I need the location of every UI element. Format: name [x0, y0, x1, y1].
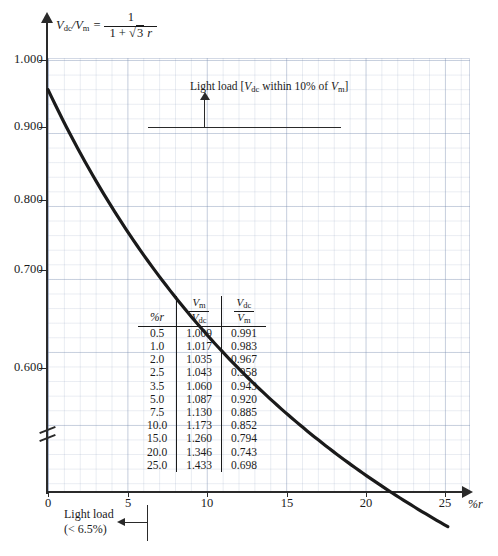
y-tick-label: 0.600 — [0, 360, 43, 375]
x-tick-label: 0 — [28, 496, 68, 511]
annotation-up-arrow-icon — [200, 92, 210, 100]
table-cell-vm-vdc: 1.009 — [177, 326, 222, 340]
data-table: %r Vm Vdc Vdc Vm 0.51.0090.9911.01.0170.… — [138, 296, 266, 472]
table-row: 7.51.1300.885 — [138, 406, 266, 419]
table-row: 20.01.3460.743 — [138, 446, 266, 459]
table-row: 2.51.0430.958 — [138, 366, 266, 379]
table-body: 0.51.0090.9911.01.0170.9832.01.0350.9672… — [138, 326, 266, 472]
table-cell-vm-vdc: 1.433 — [177, 459, 222, 472]
y-tick-label: 1.000 — [0, 52, 43, 67]
y-axis-line — [46, 20, 48, 494]
x-tick-label: 20 — [346, 496, 386, 511]
table-cell-vm-vdc: 1.260 — [177, 432, 222, 445]
x-axis-line — [46, 491, 464, 493]
y-tick-label: 0.800 — [0, 192, 43, 207]
table-cell-vm-vdc: 1.173 — [177, 419, 222, 432]
table-row: 15.01.2600.794 — [138, 432, 266, 445]
x-tick-label: 25 — [425, 496, 465, 511]
table-cell-vdc-vm: 0.743 — [222, 446, 266, 459]
table-cell-percent-r: 5.0 — [138, 393, 177, 406]
table-row: 2.01.0350.967 — [138, 353, 266, 366]
table-cell-percent-r: 7.5 — [138, 406, 177, 419]
table-cell-vm-vdc: 1.346 — [177, 446, 222, 459]
table-row: 3.51.0600.943 — [138, 380, 266, 393]
table-header-vm-over-vdc: Vm Vdc — [177, 296, 222, 326]
table-cell-percent-r: 10.0 — [138, 419, 177, 432]
table-header-row: %r Vm Vdc Vdc Vm — [138, 296, 266, 326]
table-cell-vdc-vm: 0.920 — [222, 393, 266, 406]
annotation-bottom-horizontal-line — [124, 522, 148, 523]
formula-denominator: 1 + √3 r — [104, 26, 157, 41]
y-tick-label: 0.700 — [0, 262, 43, 277]
table-cell-vdc-vm: 0.698 — [222, 459, 266, 472]
table-row: 10.01.1730.852 — [138, 419, 266, 432]
table-cell-vm-vdc: 1.060 — [177, 380, 222, 393]
annotation-left-arrow-icon — [117, 518, 125, 526]
table-cell-vdc-vm: 0.943 — [222, 380, 266, 393]
table-cell-percent-r: 0.5 — [138, 326, 177, 340]
x-tick-label: 10 — [187, 496, 227, 511]
table-cell-vm-vdc: 1.130 — [177, 406, 222, 419]
table-row: 0.51.0090.991 — [138, 326, 266, 340]
x-axis-label: %r — [468, 497, 483, 512]
table-cell-percent-r: 1.0 — [138, 340, 177, 353]
table-cell-vm-vdc: 1.017 — [177, 340, 222, 353]
formula-equals: = — [93, 18, 100, 33]
x-tick-label: 15 — [267, 496, 307, 511]
table-cell-percent-r: 2.5 — [138, 366, 177, 379]
table-row: 1.01.0170.983 — [138, 340, 266, 353]
table-row: 5.01.0870.920 — [138, 393, 266, 406]
table-cell-vdc-vm: 0.967 — [222, 353, 266, 366]
chart-figure: Vdc/Vm = 1 1 + √3 r 1.000 0.900 0.800 0.… — [0, 0, 498, 556]
formula-fraction: 1 1 + √3 r — [104, 11, 157, 40]
annotation-light-load-range: Light load (< 6.5%) — [64, 507, 114, 537]
annotation-bottom-line2: (< 6.5%) — [64, 522, 114, 537]
table-cell-vm-vdc: 1.087 — [177, 393, 222, 406]
table-cell-vm-vdc: 1.035 — [177, 353, 222, 366]
annotation-bottom-line1: Light load — [64, 507, 114, 522]
table-cell-vdc-vm: 0.852 — [222, 419, 266, 432]
table-cell-percent-r: 2.0 — [138, 353, 177, 366]
x-tick-label: 5 — [108, 496, 148, 511]
annotation-light-load-vdc: Light load [Vdc within 10% of Vm] — [190, 80, 348, 94]
table-cell-vdc-vm: 0.991 — [222, 326, 266, 340]
table-row: 25.01.4330.698 — [138, 459, 266, 472]
table-cell-vm-vdc: 1.043 — [177, 366, 222, 379]
annotation-top-vertical-line — [204, 97, 205, 127]
annotation-top-horizontal-line — [148, 127, 341, 128]
table-cell-vdc-vm: 0.983 — [222, 340, 266, 353]
y-axis-arrow-icon — [41, 12, 53, 23]
table-cell-vdc-vm: 0.794 — [222, 432, 266, 445]
y-tick-label: 0.900 — [0, 119, 43, 134]
table-header-vdc-over-vm: Vdc Vm — [222, 296, 266, 326]
table-cell-vdc-vm: 0.958 — [222, 366, 266, 379]
table-header-percent-r: %r — [138, 296, 177, 326]
table-cell-percent-r: 3.5 — [138, 380, 177, 393]
chart-title-formula: Vdc/Vm = 1 1 + √3 r — [56, 11, 157, 40]
table-cell-percent-r: 15.0 — [138, 432, 177, 445]
formula-numerator: 1 — [123, 11, 139, 25]
table-cell-percent-r: 25.0 — [138, 459, 177, 472]
table-cell-percent-r: 20.0 — [138, 446, 177, 459]
annotation-bottom-vertical-line — [147, 505, 148, 541]
table-cell-vdc-vm: 0.885 — [222, 406, 266, 419]
